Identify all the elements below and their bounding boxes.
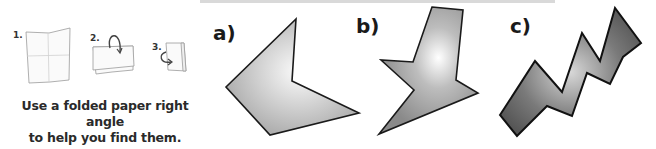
- shape-a-label: a): [213, 21, 236, 45]
- shape-b-label: b): [356, 14, 379, 38]
- shape-c-label: c): [510, 14, 531, 38]
- caption-line-2: to help you find them.: [10, 130, 200, 146]
- unfolded-paper-icon: [26, 28, 70, 83]
- fold-paper-half-icon: [93, 36, 134, 74]
- shape-a-polygon: [226, 19, 359, 135]
- shape-b-polygon: [379, 7, 478, 134]
- caption-line-1: Use a folded paper right angle: [10, 98, 200, 130]
- instruction-caption: Use a folded paper right angle to help y…: [10, 98, 200, 146]
- fold-paper-quarter-icon: [161, 43, 186, 71]
